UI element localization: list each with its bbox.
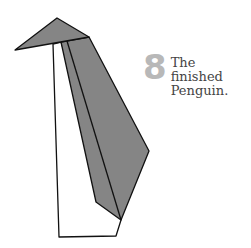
caption-line-1: The finished (171, 56, 251, 84)
caption-line-2: Penguin. (171, 84, 251, 98)
step-text: The finished Penguin. (171, 52, 251, 98)
step-number: 8 (143, 52, 167, 82)
step-caption: 8 The finished Penguin. (143, 52, 251, 98)
penguin-diagram (0, 0, 251, 248)
